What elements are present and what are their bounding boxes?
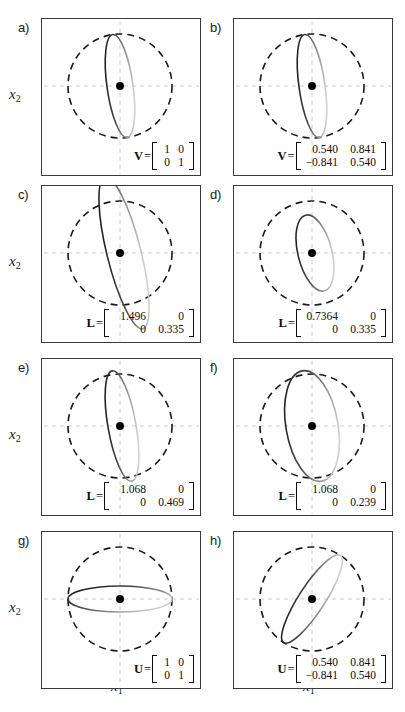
matrix-bracket-right [381,655,386,683]
center-point [116,82,124,90]
matrix-cell: 0 [173,656,187,669]
matrix-cell: −0.841 [303,669,341,682]
center-point [308,249,316,257]
matrix-cell: 0.540 [341,669,379,682]
equals-sign: = [288,662,295,677]
matrix-cell: 0 [341,310,379,323]
matrix-cell: 1.496 [111,310,149,323]
matrix-bracket-right [381,142,386,170]
matrix-bracket-right [189,655,194,683]
y-axis-label-subscript: 2 [16,433,21,444]
center-point [308,82,316,90]
matrix-annotation-b: V=0.5400.841−0.8410.540 [278,142,386,170]
matrix-cell: 0.335 [149,323,187,336]
panel-letter-b: b) [210,20,221,35]
matrix-cell: 0.540 [341,156,379,169]
matrix-bracket-right [189,482,194,510]
equals-sign: = [288,149,295,164]
matrix-annotation-d: L=0.7364000.335 [279,309,386,337]
y-axis-label-base: x [9,426,16,442]
matrix-cells: 0.5400.841−0.8410.540 [301,655,381,683]
matrix-cell: 1.068 [111,483,149,496]
matrix-cell: 0.841 [341,143,379,156]
panel-letter-e: e) [18,360,29,375]
panel-e: L=1.068000.469 [41,358,201,516]
equals-sign: = [144,662,151,677]
matrix-cell: 0.469 [149,496,187,509]
y-axis-label-base: x [9,253,16,269]
matrix-bracket-right [189,142,194,170]
y-axis-label-subscript: 2 [16,260,21,271]
equals-sign: = [96,316,103,331]
matrix-symbol: U [278,662,287,677]
matrix-cells: 1.496000.335 [109,309,189,337]
y-axis-label: x2 [9,253,21,271]
matrix-cell: 0 [111,496,149,509]
matrix-annotation-h: U=0.5400.841−0.8410.540 [278,655,386,683]
matrix-bracket-right [189,309,194,337]
matrix-cells: 1.068000.469 [109,482,189,510]
matrix-cell: 0 [303,323,341,336]
matrix-cell: 0 [303,496,341,509]
matrix-annotation-a: V=1001 [134,142,194,170]
matrix-symbol: L [87,489,95,504]
matrix-annotation-g: U=1001 [134,655,194,683]
y-axis-label: x2 [9,599,21,617]
matrix-cell: 1 [173,669,187,682]
matrix-cell: 0 [159,669,173,682]
matrix-annotation-e: L=1.068000.469 [87,482,194,510]
matrix-symbol: L [87,316,95,331]
matrix-symbol: L [279,316,287,331]
matrix-cell: 0.540 [303,143,341,156]
panel-letter-g: g) [18,533,29,548]
panel-f: L=1.068000.239 [233,358,393,516]
panel-b: V=0.5400.841−0.8410.540 [233,18,393,176]
equals-sign: = [144,149,151,164]
y-axis-label: x2 [9,86,21,104]
matrix-symbol: V [134,149,143,164]
matrix-cell: 1 [159,656,173,669]
matrix-annotation-c: L=1.496000.335 [87,309,194,337]
panel-letter-f: f) [210,360,217,375]
matrix-cells: 0.5400.841−0.8410.540 [301,142,381,170]
matrix-cell: 0 [149,310,187,323]
y-axis-label: x2 [9,426,21,444]
center-point [116,249,124,257]
equals-sign: = [288,316,295,331]
matrix-bracket-right [381,309,386,337]
figure-canvas: a)x2V=1001b)V=0.5400.841−0.8410.540c)x2L… [0,0,405,712]
matrix-cell: 0.335 [341,323,379,336]
matrix-symbol: V [278,149,287,164]
y-axis-label-base: x [9,599,16,615]
panel-letter-c: c) [18,187,28,202]
matrix-cell: −0.841 [303,156,341,169]
matrix-cell: 0.841 [341,656,379,669]
matrix-cell: 0 [149,483,187,496]
matrix-cell: 0 [341,483,379,496]
matrix-cell: 1.068 [303,483,341,496]
matrix-cell: 1 [173,156,187,169]
panel-g: U=1001 [41,531,201,689]
matrix-cells: 1001 [157,142,189,170]
matrix-cell: 1 [159,143,173,156]
panel-h: U=0.5400.841−0.8410.540 [233,531,393,689]
panel-letter-h: h) [210,533,221,548]
center-point [116,422,124,430]
matrix-cells: 1.068000.239 [301,482,381,510]
matrix-cells: 1001 [157,655,189,683]
matrix-cell: 0.239 [341,496,379,509]
matrix-symbol: U [134,662,143,677]
panel-letter-d: d) [210,187,221,202]
center-point [308,595,316,603]
matrix-cell: 0 [173,143,187,156]
matrix-cell: 0.7364 [303,310,341,323]
matrix-cell: 0.540 [303,656,341,669]
equals-sign: = [96,489,103,504]
center-point [308,422,316,430]
matrix-bracket-right [381,482,386,510]
y-axis-label-base: x [9,86,16,102]
panel-d: L=0.7364000.335 [233,185,393,343]
panel-c: L=1.496000.335 [41,185,201,343]
matrix-annotation-f: L=1.068000.239 [279,482,386,510]
matrix-cell: 0 [111,323,149,336]
